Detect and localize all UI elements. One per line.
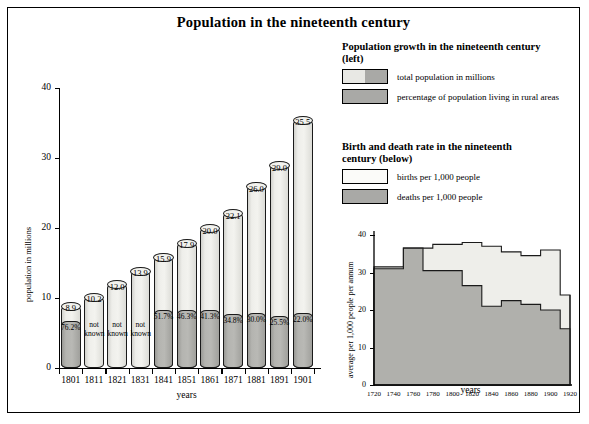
- bar-chart-x-tick-label: 1831: [127, 375, 153, 385]
- bar-chart-x-tick-label: 1841: [151, 375, 177, 385]
- bar-value-label: 26.0: [247, 184, 267, 194]
- bar-value-label: 15.9: [154, 254, 174, 264]
- bar-column: 46.3%17.9: [177, 243, 197, 368]
- bar-rural-percentage-label: 41.3%: [200, 312, 220, 321]
- bar-rural-percentage-label: 30.0%: [247, 315, 267, 324]
- bar-chart-x-tick: [198, 368, 199, 374]
- bar-chart-x-axis-label: years: [59, 390, 314, 400]
- swatch-half-dark: [365, 70, 387, 83]
- legend-item-total-population: total population in millions: [342, 69, 559, 84]
- bar-chart-x-tick: [152, 368, 153, 374]
- bar-chart-y-axis-label: population in millions: [23, 227, 33, 302]
- bar-chart-x-tick: [82, 368, 83, 374]
- bar-chart-x-tick-label: 1811: [81, 375, 107, 385]
- birth-death-rate-chart: average per 1,000 people per annum 01020…: [344, 213, 580, 403]
- bar-chart-x-tick: [105, 368, 106, 374]
- bar-rural-percentage-label: 22.0%: [293, 315, 313, 324]
- bar-chart-x-tick: [291, 368, 292, 374]
- bar-value-label: 13.9: [131, 268, 151, 278]
- bar-column: notknown10.2: [84, 297, 104, 368]
- legend-population-growth-heading: Population growth in the nineteenth cent…: [342, 41, 547, 64]
- bar-column: 76.2%8.9: [61, 306, 81, 368]
- bar-value-label: 29.0: [270, 163, 290, 173]
- page-title: Population in the nineteenth century: [8, 14, 579, 31]
- bar-chart-y-tick-label: 20: [29, 222, 51, 232]
- swatch-rural-percentage: [342, 89, 388, 104]
- bar-value-label: 17.9: [177, 240, 197, 250]
- bar-chart-x-tick-label: 1861: [197, 375, 223, 385]
- legend-item-rural-percentage: percentage of population living in rural…: [342, 89, 559, 104]
- bar-chart-x-tick-label: 1801: [58, 375, 84, 385]
- legend-item-births: births per 1,000 people: [342, 169, 547, 184]
- bar-value-label: 12.0: [107, 282, 127, 292]
- bar-column: 30.0%26.0: [247, 186, 267, 368]
- bar-chart-x-tick: [129, 368, 130, 374]
- step-chart-plot: [344, 213, 580, 403]
- swatch-deaths: [342, 189, 388, 204]
- bar-value-label: 22.1: [223, 211, 243, 221]
- bar-rural-percentage-label: 46.3%: [177, 312, 197, 321]
- bar-chart-x-tick: [175, 368, 176, 374]
- legend-label-births: births per 1,000 people: [397, 172, 480, 182]
- bar-chart-x-tick-label: 1901: [290, 375, 316, 385]
- bar-chart-x-tick-label: 1851: [174, 375, 200, 385]
- bar-rural-not-known-label: notknown: [84, 320, 104, 338]
- bar-value-label: 8.9: [61, 303, 81, 313]
- bar-value-label: 10.2: [84, 294, 104, 304]
- bar-rural-not-known-label: notknown: [131, 320, 151, 338]
- legend-label-total-population: total population in millions: [397, 72, 495, 82]
- bar-value-label: 35.5: [293, 117, 313, 127]
- legend-birth-death-rate: Birth and death rate in the nineteenth c…: [342, 141, 547, 204]
- bar-column: 22.0%35.5: [293, 120, 313, 369]
- bar-chart-x-tick-label: 1881: [243, 375, 269, 385]
- bar-column: notknown12.0: [107, 284, 127, 368]
- bar-rural-percentage-label: 76.2%: [61, 323, 81, 332]
- step-chart-x-axis-label: years: [368, 385, 573, 395]
- swatch-half-light: [343, 70, 365, 83]
- bar-chart-y-tick-label: 0: [29, 362, 51, 372]
- bar-chart-y-tick-label: 40: [29, 82, 51, 92]
- bar-chart-x-tick: [221, 368, 222, 374]
- bar-chart-x-tick: [314, 368, 315, 374]
- bar-rural-percentage-label: 51.7%: [154, 312, 174, 321]
- legend-label-deaths: deaths per 1,000 people: [397, 192, 482, 202]
- bar-rural-not-known-label: notknown: [107, 320, 127, 338]
- legend-label-rural-percentage: percentage of population living in rural…: [397, 92, 559, 102]
- population-growth-chart: population in millions 010203040 76.2%8.…: [21, 52, 331, 404]
- legend-birth-death-heading: Birth and death rate in the nineteenth c…: [342, 141, 547, 164]
- bar-chart-y-tick-label: 30: [29, 152, 51, 162]
- bar-chart-x-tick: [268, 368, 269, 374]
- bar-rural-percentage-label: 34.8%: [223, 316, 243, 325]
- chart-frame: Population in the nineteenth century Pop…: [7, 7, 580, 413]
- bar-column: 41.3%20.0: [200, 228, 220, 368]
- bar-chart-x-tick-label: 1871: [220, 375, 246, 385]
- bar-value-label: 20.0: [200, 226, 220, 236]
- bar-chart-x-tick: [245, 368, 246, 374]
- legend-population-growth: Population growth in the nineteenth cent…: [342, 41, 559, 104]
- bar-rural-percentage-label: 25.5%: [270, 318, 290, 327]
- bar-column: notknown13.9: [131, 271, 151, 368]
- bar-column: 25.5%29.0: [270, 165, 290, 368]
- bar-chart-y-tick-label: 10: [29, 292, 51, 302]
- swatch-total-population: [342, 69, 388, 84]
- legend-item-deaths: deaths per 1,000 people: [342, 189, 547, 204]
- swatch-births: [342, 169, 388, 184]
- bar-column: 34.8%22.1: [223, 213, 243, 368]
- bar-chart-x-tick: [59, 368, 60, 374]
- bar-chart-x-axis-line: [59, 368, 321, 369]
- bar-chart-x-tick-label: 1821: [104, 375, 130, 385]
- bar-column: 51.7%15.9: [154, 257, 174, 368]
- bar-chart-x-tick-label: 1891: [267, 375, 293, 385]
